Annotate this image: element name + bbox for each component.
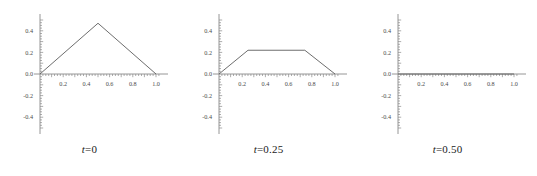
- data-curve-0: [40, 23, 156, 74]
- x-tick-label: 0.4: [262, 80, 270, 87]
- x-tick-label: 0.6: [285, 80, 293, 87]
- y-tick-label: 0.4: [25, 27, 33, 34]
- plot-area-0: 0.20.40.60.81.0-0.4-0.20.00.20.4: [0, 0, 179, 148]
- y-tick-label: 0.2: [383, 49, 391, 56]
- x-tick-label: 0.8: [308, 80, 316, 87]
- y-tick-label: 0.0: [383, 70, 391, 77]
- caption-value-1: 0.25: [263, 143, 283, 155]
- plot-svg-2: 0.20.40.60.81.0-0.4-0.20.00.20.4: [358, 0, 537, 148]
- y-tick-label: 0.0: [204, 70, 212, 77]
- plot-svg-1: 0.20.40.60.81.0-0.4-0.20.00.20.4: [179, 0, 358, 148]
- caption-value-0: 0: [91, 143, 97, 155]
- x-tick-label: 1.0: [510, 80, 518, 87]
- x-tick-label: 0.4: [83, 80, 91, 87]
- x-tick-label: 0.6: [106, 80, 114, 87]
- y-tick-label: 0.2: [25, 49, 33, 56]
- chart-panel-0: 0.20.40.60.81.0-0.4-0.20.00.20.4 t=0: [0, 0, 179, 176]
- x-tick-label: 0.8: [487, 80, 495, 87]
- x-tick-label: 0.2: [238, 80, 246, 87]
- wave-evolution-figure: 0.20.40.60.81.0-0.4-0.20.00.20.4 t=0 0.2…: [0, 0, 537, 176]
- panel-caption-2: t=0.50: [358, 143, 537, 155]
- chart-panel-1: 0.20.40.60.81.0-0.4-0.20.00.20.4 t=0.25: [179, 0, 358, 176]
- x-tick-label: 1.0: [152, 80, 160, 87]
- y-tick-label: -0.4: [381, 113, 391, 120]
- x-tick-label: 0.6: [464, 80, 472, 87]
- plot-area-1: 0.20.40.60.81.0-0.4-0.20.00.20.4: [179, 0, 358, 148]
- y-tick-label: -0.2: [381, 92, 391, 99]
- y-tick-label: -0.2: [202, 92, 212, 99]
- plot-area-2: 0.20.40.60.81.0-0.4-0.20.00.20.4: [358, 0, 537, 148]
- y-tick-label: 0.4: [204, 27, 212, 34]
- y-tick-label: 0.0: [25, 70, 33, 77]
- x-tick-label: 1.0: [331, 80, 339, 87]
- y-tick-label: 0.2: [204, 49, 212, 56]
- x-tick-label: 0.2: [59, 80, 67, 87]
- panel-caption-1: t=0.25: [179, 143, 358, 155]
- y-tick-label: 0.4: [383, 27, 391, 34]
- y-tick-label: -0.4: [23, 113, 33, 120]
- x-tick-label: 0.2: [417, 80, 425, 87]
- x-tick-label: 0.8: [129, 80, 137, 87]
- data-curve-1: [219, 50, 335, 74]
- x-tick-label: 0.4: [441, 80, 449, 87]
- panel-caption-0: t=0: [0, 143, 179, 155]
- plot-svg-0: 0.20.40.60.81.0-0.4-0.20.00.20.4: [0, 0, 179, 148]
- y-tick-label: -0.2: [23, 92, 33, 99]
- chart-panel-2: 0.20.40.60.81.0-0.4-0.20.00.20.4 t=0.50: [358, 0, 537, 176]
- caption-value-2: 0.50: [442, 143, 462, 155]
- y-tick-label: -0.4: [202, 113, 212, 120]
